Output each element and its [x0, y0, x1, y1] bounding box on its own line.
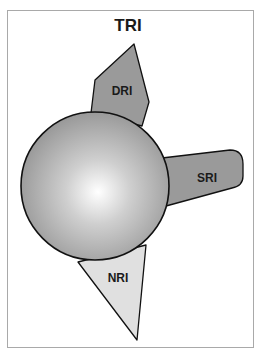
sri-region: SRI	[162, 150, 243, 206]
dri-label: DRI	[112, 84, 133, 98]
center-sphere	[21, 112, 169, 260]
title-tri: TRI	[114, 16, 141, 35]
tri-diagram: TRI DRI SRI NRI	[0, 0, 265, 356]
sri-label: SRI	[197, 171, 217, 185]
nri-label: NRI	[108, 271, 129, 285]
